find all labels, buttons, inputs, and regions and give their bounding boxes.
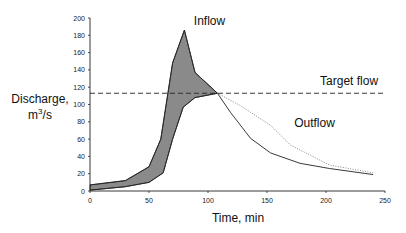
inflow-line — [90, 30, 373, 185]
x-tick-label: 250 — [379, 197, 391, 204]
y-tick-label: 140 — [73, 66, 85, 73]
y-tick-label: 80 — [77, 118, 85, 125]
y-tick-label: 40 — [77, 153, 85, 160]
axes: 0204060801001201401601802000501001502002… — [73, 15, 391, 205]
x-axis-label: Time, min — [212, 211, 264, 225]
annotation-outflow: Outflow — [294, 116, 335, 130]
attenuation-area — [90, 30, 217, 190]
y-tick-label: 180 — [73, 32, 85, 39]
y-tick-label: 200 — [73, 15, 85, 22]
x-tick-label: 200 — [320, 197, 332, 204]
y-tick-label: 0 — [81, 188, 85, 195]
y-tick-label: 120 — [73, 84, 85, 91]
y-tick-label: 160 — [73, 49, 85, 56]
annotations: InflowTarget flowOutflow — [194, 14, 379, 130]
y-axis-label-line2: m3/s — [28, 107, 52, 122]
y-axis-label-line1: Discharge, — [11, 92, 68, 106]
y-tick-label: 20 — [77, 170, 85, 177]
y-tick-label: 100 — [73, 101, 85, 108]
annotation-inflow: Inflow — [194, 14, 226, 28]
x-tick-label: 0 — [88, 197, 92, 204]
annotation-target-flow: Target flow — [320, 74, 378, 88]
plot-area — [90, 30, 385, 190]
x-tick-label: 100 — [202, 197, 214, 204]
discharge-chart: 0204060801001201401601802000501001502002… — [0, 0, 406, 233]
y-tick-label: 60 — [77, 136, 85, 143]
outflow-dotted-line — [217, 93, 373, 173]
x-tick-label: 50 — [145, 197, 153, 204]
x-tick-label: 150 — [261, 197, 273, 204]
